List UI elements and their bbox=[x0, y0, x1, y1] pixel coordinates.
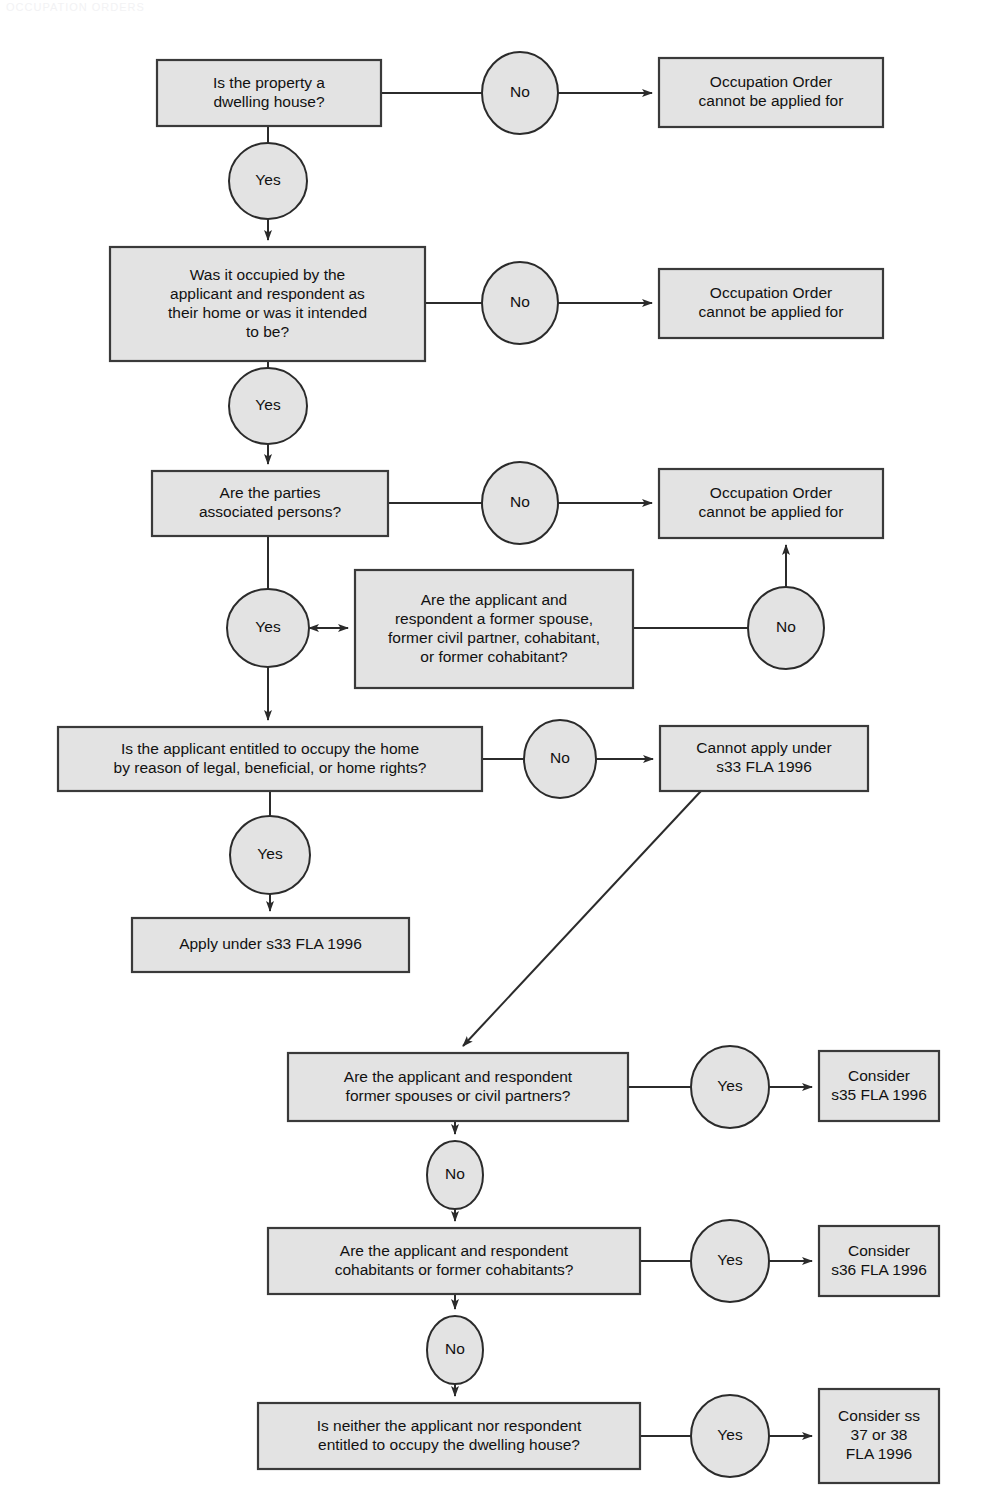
flow-decision-label[interactable]: No bbox=[482, 262, 558, 344]
node-label-line: cohabitants or former cohabitants? bbox=[335, 1261, 574, 1278]
node-label-line: Apply under s33 FLA 1996 bbox=[179, 935, 362, 952]
flow-decision-label[interactable]: No bbox=[427, 1141, 483, 1209]
node-label: Yes bbox=[717, 1426, 743, 1443]
flow-decision-label[interactable]: Yes bbox=[691, 1395, 769, 1477]
node-label-line: Occupation Order bbox=[710, 284, 832, 301]
flow-decision-label[interactable]: Yes bbox=[227, 589, 309, 667]
node-label-line: by reason of legal, beneficial, or home … bbox=[114, 759, 427, 776]
flow-decision-label[interactable]: Yes bbox=[229, 368, 307, 444]
node-label: No bbox=[510, 493, 530, 510]
flow-decision-label[interactable]: No bbox=[482, 52, 558, 134]
node-label-line: respondent a former spouse, bbox=[395, 610, 593, 627]
node-label-line: their home or was it intended bbox=[168, 304, 367, 321]
node-label-line: Occupation Order bbox=[710, 73, 832, 90]
node-label-line: No bbox=[776, 618, 796, 635]
node-label-line: former spouses or civil partners? bbox=[346, 1087, 571, 1104]
flow-edge bbox=[463, 791, 701, 1046]
node-label-line: associated persons? bbox=[199, 503, 342, 520]
node-label: Apply under s33 FLA 1996 bbox=[179, 935, 362, 952]
flow-node-box[interactable]: Are the applicant andrespondent a former… bbox=[355, 570, 633, 688]
flow-decision-label[interactable]: No bbox=[482, 462, 558, 544]
node-label: Yes bbox=[255, 171, 281, 188]
flow-node-box[interactable]: Are the applicant and respondentformer s… bbox=[288, 1053, 628, 1121]
flow-node-box[interactable]: Apply under s33 FLA 1996 bbox=[132, 918, 409, 972]
node-label-line: Yes bbox=[255, 618, 281, 635]
node-label-line: No bbox=[445, 1165, 465, 1182]
node-label-line: Yes bbox=[717, 1426, 743, 1443]
node-label: Yes bbox=[255, 618, 281, 635]
node-label-line: s36 FLA 1996 bbox=[831, 1261, 927, 1278]
node-label: Yes bbox=[255, 396, 281, 413]
node-label-line: or former cohabitant? bbox=[420, 648, 568, 665]
node-label-line: Is the property a bbox=[213, 74, 325, 91]
node-label-line: Consider bbox=[848, 1067, 910, 1084]
node-label-line: Consider ss bbox=[838, 1407, 920, 1424]
node-label-line: Yes bbox=[257, 845, 283, 862]
flowchart-canvas: Is the property adwelling house?NoOccupa… bbox=[0, 0, 988, 1493]
node-label: No bbox=[445, 1340, 465, 1357]
flow-node-box[interactable]: Consider ss37 or 38FLA 1996 bbox=[819, 1389, 939, 1483]
node-label: Yes bbox=[717, 1251, 743, 1268]
node-label-line: Is neither the applicant nor respondent bbox=[317, 1417, 582, 1434]
node-label-line: Are the applicant and bbox=[421, 591, 568, 608]
node-label-line: s35 FLA 1996 bbox=[831, 1086, 927, 1103]
flow-node-box[interactable]: Are the applicant and respondentcohabita… bbox=[268, 1228, 640, 1294]
node-label: Yes bbox=[257, 845, 283, 862]
node-label-line: entitled to occupy the dwelling house? bbox=[318, 1436, 580, 1453]
node-label-line: No bbox=[510, 493, 530, 510]
flow-decision-label[interactable]: Yes bbox=[229, 143, 307, 219]
flow-node-box[interactable]: Are the partiesassociated persons? bbox=[152, 471, 388, 536]
node-label: No bbox=[776, 618, 796, 635]
node-label-line: No bbox=[445, 1340, 465, 1357]
flow-node-box[interactable]: Occupation Ordercannot be applied for bbox=[659, 469, 883, 538]
flow-decision-label[interactable]: No bbox=[748, 587, 824, 669]
flow-decision-label[interactable]: No bbox=[524, 720, 596, 798]
node-label-line: Yes bbox=[717, 1077, 743, 1094]
flow-node-box[interactable]: Is the property adwelling house? bbox=[157, 60, 381, 126]
node-label-line: Are the applicant and respondent bbox=[344, 1068, 573, 1085]
node-label-line: No bbox=[510, 293, 530, 310]
node-layer: Is the property adwelling house?NoOccupa… bbox=[58, 52, 939, 1483]
node-label: No bbox=[550, 749, 570, 766]
node-label-line: Yes bbox=[255, 171, 281, 188]
flowchart-svg: Is the property adwelling house?NoOccupa… bbox=[0, 0, 988, 1493]
node-label: Yes bbox=[717, 1077, 743, 1094]
node-label-line: FLA 1996 bbox=[846, 1445, 912, 1462]
node-label-line: Yes bbox=[717, 1251, 743, 1268]
flow-node-box[interactable]: Cannot apply unders33 FLA 1996 bbox=[660, 726, 868, 791]
node-label-line: cannot be applied for bbox=[699, 503, 844, 520]
node-label-line: Consider bbox=[848, 1242, 910, 1259]
node-label-line: cannot be applied for bbox=[699, 92, 844, 109]
flow-node-box[interactable]: Occupation Ordercannot be applied for bbox=[659, 269, 883, 338]
flow-decision-label[interactable]: No bbox=[427, 1316, 483, 1384]
flow-node-box[interactable]: Was it occupied by theapplicant and resp… bbox=[110, 247, 425, 361]
node-label-line: former civil partner, cohabitant, bbox=[388, 629, 600, 646]
node-label-line: Is the applicant entitled to occupy the … bbox=[121, 740, 419, 757]
node-label-line: to be? bbox=[246, 323, 289, 340]
flow-node-box[interactable]: Occupation Ordercannot be applied for bbox=[659, 58, 883, 127]
node-label-line: Cannot apply under bbox=[696, 739, 831, 756]
flow-node-box[interactable]: Is the applicant entitled to occupy the … bbox=[58, 727, 482, 791]
node-label-line: dwelling house? bbox=[213, 93, 325, 110]
node-label-line: No bbox=[550, 749, 570, 766]
node-label-line: applicant and respondent as bbox=[170, 285, 365, 302]
node-label-line: No bbox=[510, 83, 530, 100]
flow-decision-label[interactable]: Yes bbox=[691, 1220, 769, 1302]
node-label: No bbox=[510, 83, 530, 100]
node-label-line: 37 or 38 bbox=[851, 1426, 908, 1443]
node-label: No bbox=[445, 1165, 465, 1182]
node-label-line: Occupation Order bbox=[710, 484, 832, 501]
node-label-line: cannot be applied for bbox=[699, 303, 844, 320]
node-label-line: s33 FLA 1996 bbox=[716, 758, 812, 775]
flow-decision-label[interactable]: Yes bbox=[230, 816, 310, 894]
flow-decision-label[interactable]: Yes bbox=[691, 1046, 769, 1128]
node-label-line: Are the applicant and respondent bbox=[340, 1242, 569, 1259]
flow-node-box[interactable]: Considers36 FLA 1996 bbox=[819, 1226, 939, 1296]
node-label-line: Yes bbox=[255, 396, 281, 413]
node-label-line: Was it occupied by the bbox=[190, 266, 345, 283]
node-label: No bbox=[510, 293, 530, 310]
flow-node-box[interactable]: Considers35 FLA 1996 bbox=[819, 1051, 939, 1121]
flow-node-box[interactable]: Is neither the applicant nor respondente… bbox=[258, 1403, 640, 1469]
node-label-line: Are the parties bbox=[220, 484, 321, 501]
